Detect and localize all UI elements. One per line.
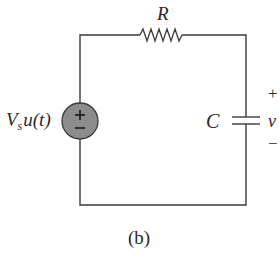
resistor-label: R [157,4,169,23]
capacitor-label: C [206,111,219,131]
wire-right-bottom [80,124,246,205]
figure-caption: (b) [128,228,150,247]
voltage-plus-sign: + [268,85,278,102]
wire-left-top [80,35,140,103]
voltage-source-symbol [62,103,98,139]
source-label-sub: s [18,119,23,133]
source-label: Vsu(t) [6,110,51,132]
source-label-v: V [6,109,18,130]
circuit-diagram: R Vsu(t) C + v − (b) [0,0,280,259]
resistor-symbol [140,29,182,41]
voltage-label: v [268,112,276,130]
wire-top-right [182,35,246,117]
source-label-ut: u(t) [23,109,50,130]
voltage-minus-sign: − [268,135,278,152]
